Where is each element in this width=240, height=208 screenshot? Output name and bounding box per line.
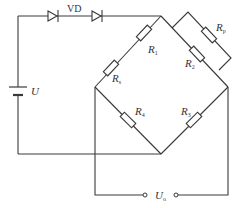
output-label: Uo <box>155 189 166 202</box>
resistor-r1-icon <box>136 25 151 41</box>
r1-label: R1 <box>147 43 158 56</box>
rp-label: Rp <box>215 21 226 34</box>
r4-label: R4 <box>134 105 145 118</box>
output-lead-right <box>178 87 228 195</box>
diode-icon <box>92 10 102 22</box>
terminal-left-icon <box>143 193 147 197</box>
resistor-rp-icon <box>201 27 216 43</box>
circuit-diagram: U VD R1 Rs R2 Rp R4 R3 Uo <box>0 0 240 208</box>
terminal-right-icon <box>174 193 178 197</box>
resistor-r4-icon <box>120 112 136 128</box>
diode-icon <box>48 10 58 22</box>
rs-label: Rs <box>111 72 122 85</box>
source-label: U <box>31 85 40 97</box>
r2-label: R2 <box>184 57 195 70</box>
output-lead-left <box>95 87 143 195</box>
r3-label: R3 <box>180 105 191 118</box>
diode-label: VD <box>67 3 81 14</box>
battery-icon <box>9 87 27 95</box>
